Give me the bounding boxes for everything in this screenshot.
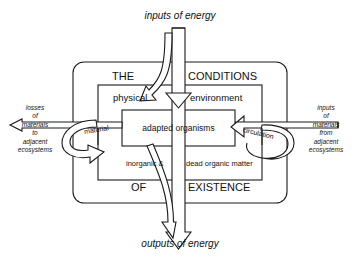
- title-inputs-of-energy: inputs of energy: [0, 10, 360, 21]
- right-caption-line-6: ecosystems: [297, 146, 355, 154]
- right-caption-line-3: materials: [297, 121, 355, 129]
- left-caption-line-1: losses: [6, 104, 64, 112]
- title-outputs-of-energy: outputs of energy: [0, 238, 360, 249]
- core-box-label: adapted organisms: [122, 123, 235, 133]
- outer-box-label-of: OF: [131, 181, 146, 193]
- right-caption-line-4: from: [297, 129, 355, 137]
- left-caption-line-5: adjacent: [6, 138, 64, 146]
- outer-box-label-conditions: CONDITIONS: [188, 70, 257, 82]
- left-caption-line-6: ecosystems: [6, 146, 64, 154]
- inner-box-label-inorganic: inorganic &: [126, 159, 164, 168]
- outer-box-label-the: THE: [112, 70, 134, 82]
- left-caption-line-4: to: [6, 129, 64, 137]
- left-caption-line-2: of: [6, 112, 64, 120]
- inner-box-label-physical: physical: [113, 92, 147, 103]
- left-flow-caption: losses of materials to adjacent ecosyste…: [6, 104, 64, 154]
- outer-box-label-existence: EXISTENCE: [188, 181, 250, 193]
- right-caption-line-5: adjacent: [297, 138, 355, 146]
- inner-box-label-environment: environment: [190, 92, 242, 103]
- right-caption-line-2: of: [297, 112, 355, 120]
- ecosystem-diagram: inputs of energy outputs of energy THE C…: [0, 0, 360, 259]
- inner-box-label-dead-organic-matter: dead organic matter: [186, 159, 253, 168]
- right-caption-line-1: inputs: [297, 104, 355, 112]
- left-caption-line-3: materials: [6, 121, 64, 129]
- right-flow-caption: inputs of materials from adjacent ecosys…: [297, 104, 355, 154]
